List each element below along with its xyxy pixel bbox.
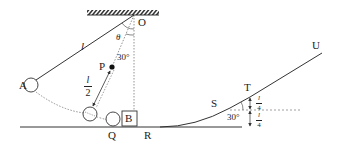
label-o: O <box>138 17 146 28</box>
ramp-curve <box>160 53 322 127</box>
label-b: B <box>125 113 132 124</box>
fraction-l-half: l 2 <box>84 75 92 98</box>
diagram-canvas: O A P Q B R S T U l θ 30° 30° l 2 l 4 l … <box>0 0 342 145</box>
ceiling <box>87 10 159 15</box>
peg-p <box>109 64 114 69</box>
p-to-ball-dotted <box>96 70 114 108</box>
fraction-height-lower: l 4 <box>256 112 262 129</box>
fraction-height-upper: l 4 <box>256 95 262 112</box>
label-r: R <box>144 130 151 141</box>
label-angle-30-ramp: 30° <box>227 113 240 122</box>
label-p: P <box>99 61 105 72</box>
angle-30-arc <box>126 34 134 35</box>
pendulum-string <box>36 15 134 80</box>
label-s: S <box>211 98 217 109</box>
theta-arc <box>122 23 134 29</box>
label-angle-30-top: 30° <box>117 53 130 62</box>
label-a: A <box>19 80 27 91</box>
l-half-arrow <box>93 71 110 106</box>
label-theta: θ <box>116 33 120 42</box>
label-q: Q <box>108 130 116 141</box>
label-t: T <box>244 82 251 93</box>
ramp-angle-arc <box>241 102 243 110</box>
ball-q <box>106 112 120 126</box>
label-u: U <box>312 40 320 51</box>
label-l: l <box>81 41 84 52</box>
diagram-svg <box>0 0 342 145</box>
